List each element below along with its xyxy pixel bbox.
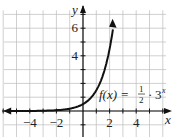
x-axis-label: x <box>164 112 171 127</box>
svg-text:4: 4 <box>72 48 79 63</box>
svg-text:4: 4 <box>133 115 140 130</box>
exponential-chart: −4−22446 y x f(x) = 1 2 · 3 x <box>0 0 173 137</box>
function-curve <box>7 29 113 111</box>
svg-text:2: 2 <box>106 115 113 130</box>
y-axis-label: y <box>70 2 78 17</box>
tick-labels: −4−22446 <box>23 20 140 130</box>
svg-text:6: 6 <box>72 20 79 35</box>
svg-text:−4: −4 <box>23 115 37 130</box>
svg-text:−2: −2 <box>49 115 63 130</box>
function-label: f(x) = 1 2 · 3 x <box>99 84 166 105</box>
fraction-numerator: 1 <box>139 84 144 94</box>
dot-operator: · <box>148 87 152 102</box>
base: 3 <box>155 87 162 102</box>
fraction-denominator: 2 <box>139 95 144 105</box>
function-name: f(x) = <box>99 87 129 102</box>
exponent: x <box>161 86 166 95</box>
